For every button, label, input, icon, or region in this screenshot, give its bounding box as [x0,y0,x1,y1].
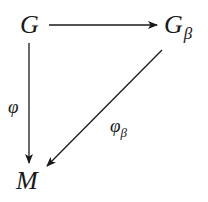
node-g-beta: Gβ [164,12,192,38]
node-g-label: G [20,10,39,39]
label-phi-beta: φβ [110,116,127,135]
node-g-beta-subscript: β [184,24,192,43]
label-phi-text: φ [8,96,19,117]
label-phi: φ [8,97,19,116]
label-phi-beta-subscript: β [121,125,127,140]
label-phi-beta-text: φ [110,115,121,136]
node-g: G [20,12,39,38]
arrow-gbeta-to-m [47,50,162,166]
node-g-beta-label: G [164,10,183,39]
node-m-label: M [16,166,38,195]
node-m: M [16,168,38,194]
